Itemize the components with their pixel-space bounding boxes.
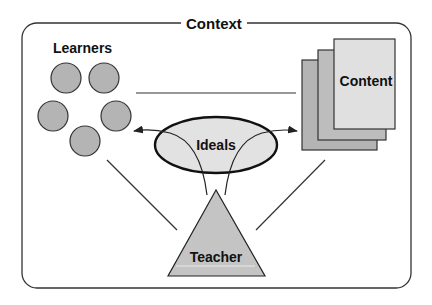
learners-group xyxy=(38,63,131,156)
learner-circle-3 xyxy=(38,101,68,131)
content-pages xyxy=(302,39,395,150)
content-label: Content xyxy=(336,74,396,88)
teacher-learners-line xyxy=(107,160,177,230)
learner-circle-5 xyxy=(70,126,100,156)
learner-circle-4 xyxy=(101,101,131,131)
learner-circle-1 xyxy=(51,63,81,93)
teacher-label: Teacher xyxy=(183,250,249,264)
teacher-content-line xyxy=(256,160,325,230)
ideals-label: Ideals xyxy=(186,138,246,152)
learners-label: Learners xyxy=(53,41,112,55)
learner-circle-2 xyxy=(89,63,119,93)
context-title: Context xyxy=(181,16,247,31)
